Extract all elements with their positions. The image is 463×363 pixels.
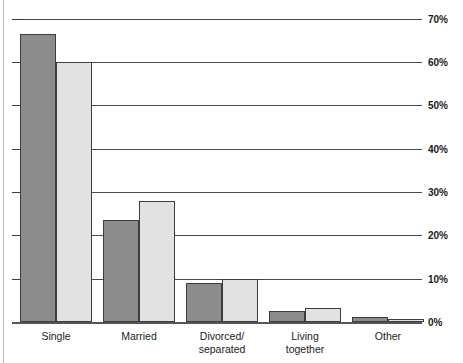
y-axis-tick-label: 70% — [428, 14, 448, 25]
bar-series1-group2 — [103, 220, 139, 322]
y-tick-mark-70 — [12, 19, 25, 20]
bar-series2-group2 — [139, 201, 175, 322]
bar-series1-group3 — [186, 283, 222, 322]
bar-series1-group4 — [269, 311, 305, 322]
gridline-70 — [12, 19, 422, 20]
x-axis-baseline — [12, 322, 422, 324]
bar-series2-group4 — [305, 308, 341, 322]
plot-area: 0%10%20%30%40%50%60%70% — [0, 0, 463, 330]
y-axis-tick-label: 10% — [428, 274, 448, 285]
x-axis-category-label: Other — [336, 330, 440, 343]
bar-chart: 0%10%20%30%40%50%60%70% SingleMarriedDiv… — [0, 0, 463, 363]
y-axis-tick-label: 60% — [428, 57, 448, 68]
y-axis-tick-label: 50% — [428, 100, 448, 111]
y-axis-tick-label: 0% — [428, 317, 442, 328]
bar-series2-group1 — [56, 62, 92, 322]
bar-series2-group3 — [222, 279, 258, 322]
y-axis-tick-label: 20% — [428, 230, 448, 241]
y-axis-tick-label: 30% — [428, 187, 448, 198]
bar-series1-group1 — [20, 34, 56, 322]
y-axis-tick-label: 40% — [428, 144, 448, 155]
